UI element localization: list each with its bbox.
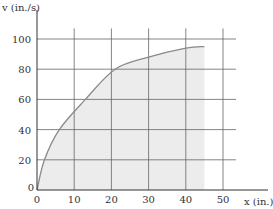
y-tick-label: 20 (18, 155, 31, 166)
y-tick-labels: 020406080100 (12, 34, 34, 193)
y-axis-label: v (in./s) (1, 2, 40, 13)
x-axis-label: x (in.) (244, 196, 273, 207)
y-tick-label: 40 (18, 125, 31, 136)
y-tick-label: 100 (12, 34, 31, 45)
x-tick-label: 50 (217, 194, 230, 205)
x-tick-label: 30 (142, 194, 155, 205)
shaded-area (37, 47, 204, 190)
y-tick-label: 60 (18, 94, 31, 105)
y-tick-label: 80 (18, 64, 31, 75)
x-tick-label: 20 (105, 194, 118, 205)
chart: 01020304050 020406080100 x (in.) v (in./… (0, 0, 273, 209)
x-tick-label: 40 (179, 194, 192, 205)
x-tick-labels: 01020304050 (34, 194, 230, 205)
x-tick-label: 10 (68, 194, 81, 205)
y-tick-label: 0 (28, 182, 34, 193)
x-tick-label: 0 (34, 194, 40, 205)
